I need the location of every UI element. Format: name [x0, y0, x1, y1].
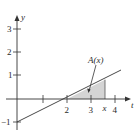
t-axis: [6, 97, 131, 102]
t-tick-label-4: 4: [113, 105, 118, 115]
area-label: A(x): [87, 55, 104, 65]
y-tick-label-3: 3: [7, 24, 12, 34]
t-tick-label-2: 2: [65, 105, 70, 115]
area-function-diagram: y t 3 2 1 −1 2 3 x 4 A(x): [0, 0, 138, 135]
y-axis: [15, 15, 20, 130]
y-tick-label-2: 2: [7, 47, 12, 57]
shaded-area-region: [67, 80, 105, 99]
t-axis-label: t: [131, 100, 134, 110]
y-axis-label: y: [20, 12, 25, 22]
y-axis-arrow-icon: [15, 15, 20, 21]
x-marker-label: x: [102, 103, 107, 113]
y-tick-label-1: 1: [8, 70, 13, 80]
y-tick-label-neg1: −1: [1, 117, 11, 127]
t-tick-label-3: 3: [89, 105, 94, 115]
